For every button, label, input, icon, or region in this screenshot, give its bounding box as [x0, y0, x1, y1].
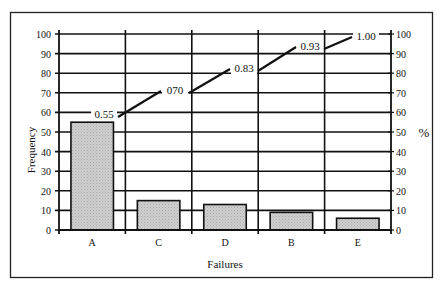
- y-tick-label: 80: [41, 68, 51, 79]
- x-axis-category-labels: ACDBE: [89, 237, 361, 248]
- cumulative-label: 0.93: [300, 40, 320, 52]
- y-tick-label: 50: [41, 127, 51, 138]
- y2-tick-label: 70: [396, 88, 406, 99]
- y-tick-label: 90: [41, 49, 51, 60]
- y2-tick-label: 30: [396, 166, 406, 177]
- cumulative-label: 1.00: [356, 30, 376, 42]
- x-tick-label: C: [155, 237, 162, 248]
- y2-tick-label: 10: [396, 205, 406, 216]
- x-axis-label: Failures: [207, 258, 242, 270]
- bar-C: [137, 201, 179, 230]
- y2-tick-label: 100: [396, 29, 411, 40]
- y-tick-label: 100: [36, 29, 51, 40]
- cumulative-label: 070: [167, 84, 184, 96]
- x-tick-label: B: [288, 237, 295, 248]
- y-axis-right-ticks: 0102030405060708090100: [396, 29, 411, 236]
- pareto-chart: 0.550700.830.931.00 01020304050607080901…: [0, 0, 443, 291]
- cumulative-label: 0.83: [234, 62, 254, 74]
- y2-tick-label: 60: [396, 107, 406, 118]
- y2-tick-label: 20: [396, 186, 406, 197]
- y2-tick-label: 90: [396, 49, 406, 60]
- y-tick-label: 60: [41, 107, 51, 118]
- bar-E: [337, 218, 379, 230]
- y2-tick-label: 40: [396, 147, 406, 158]
- bar-B: [270, 212, 312, 230]
- x-tick-label: D: [221, 237, 228, 248]
- y-tick-label: 20: [41, 186, 51, 197]
- y-axis-left-ticks: 0102030405060708090100: [36, 29, 51, 236]
- cumulative-line: 0.550700.830.931.00: [91, 30, 379, 120]
- x-tick-label: A: [89, 237, 97, 248]
- cumulative-label: 0.55: [94, 108, 114, 120]
- y2-tick-label: 50: [396, 127, 406, 138]
- bar-D: [204, 205, 246, 230]
- y-tick-label: 70: [41, 88, 51, 99]
- bars: [71, 122, 379, 230]
- bar-A: [71, 122, 113, 230]
- y2-axis-label: %: [419, 125, 430, 140]
- y-tick-label: 10: [41, 205, 51, 216]
- y-tick-label: 0: [46, 225, 51, 236]
- x-tick-label: E: [355, 237, 361, 248]
- y2-tick-label: 80: [396, 68, 406, 79]
- y-tick-label: 40: [41, 147, 51, 158]
- y-axis-label: Frequency: [25, 126, 37, 173]
- y2-tick-label: 0: [396, 225, 401, 236]
- y-tick-label: 30: [41, 166, 51, 177]
